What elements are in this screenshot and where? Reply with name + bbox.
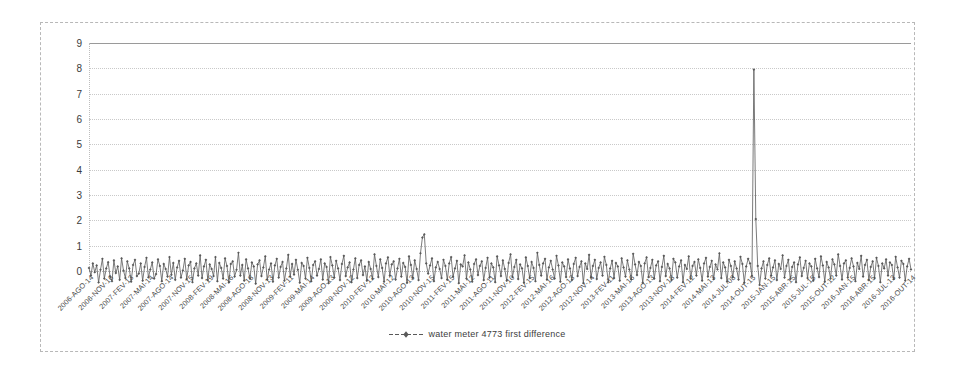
y-tick-label-8: 8	[76, 63, 82, 74]
series-line	[89, 70, 911, 285]
plot-area: 0123456789	[89, 43, 911, 271]
y-tick-label-9: 9	[76, 38, 82, 49]
series-water-meter-4773-first-difference	[89, 43, 911, 271]
y-tick-label-0: 0	[76, 266, 82, 277]
series-markers	[88, 68, 913, 286]
legend-label: water meter 4773 first difference	[428, 329, 565, 339]
chart-screenshot: 0123456789 2006-AGO-142006-NOV-162007-FE…	[0, 0, 955, 379]
x-axis-tick-labels: 2006-AGO-142006-NOV-162007-FEV-132007-MA…	[89, 273, 911, 353]
y-tick-label-3: 3	[76, 190, 82, 201]
y-tick-label-5: 5	[76, 139, 82, 150]
y-tick-label-2: 2	[76, 215, 82, 226]
legend-line-diamond-icon	[389, 330, 423, 339]
y-tick-label-6: 6	[76, 114, 82, 125]
chart-legend: water meter 4773 first difference	[41, 329, 914, 339]
y-tick-label-7: 7	[76, 88, 82, 99]
y-tick-label-4: 4	[76, 164, 82, 175]
y-tick-label-1: 1	[76, 240, 82, 251]
chart-frame: 0123456789 2006-AGO-142006-NOV-162007-FE…	[40, 22, 915, 352]
